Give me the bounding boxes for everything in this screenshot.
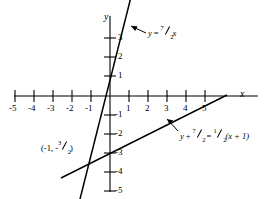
x-tick-label-3: 3: [164, 104, 169, 113]
eq1-numerator: 7: [161, 25, 164, 32]
eq1-denominator: 2: [170, 34, 173, 41]
point-label-denominator: 2: [68, 149, 71, 156]
x-tick-label-4: 4: [183, 104, 188, 113]
equation-label-line2: y+72=12(x + 1): [180, 130, 249, 141]
coordinate-plane-svg: [0, 0, 273, 199]
point-label-fraction: 32: [58, 142, 70, 153]
eq2-numerator-left: 7: [193, 128, 196, 135]
y-axis-label: y: [104, 12, 108, 22]
y-tick-label-2: 2: [118, 52, 123, 61]
eq2-fraction-left: 72: [193, 130, 205, 141]
y-tick-label-1: 1: [118, 71, 123, 80]
point-label-minus1-minus3halves: (-1, -32): [41, 142, 73, 153]
eq2-plus: +: [186, 131, 191, 141]
x-tick-label-1: 1: [126, 104, 131, 113]
x-tick-label--4: -4: [28, 104, 36, 113]
eq2-lhs-y: y: [180, 131, 184, 141]
line-steep-y-equals-seven-halves-x: [79, 0, 132, 199]
eq1-fraction: 72: [161, 27, 173, 38]
y-tick-label--1: -1: [115, 110, 123, 119]
x-tick-label--2: -2: [66, 104, 74, 113]
eq2-fraction-right: 12: [213, 130, 225, 141]
eq1-equals: =: [154, 28, 159, 38]
x-axis-label: x: [240, 89, 244, 99]
y-tick-label--2: -2: [115, 129, 123, 138]
eq2-numerator-right: 1: [213, 128, 216, 135]
y-tick-label-3: 3: [118, 33, 123, 42]
x-tick-label-5: 5: [202, 104, 207, 113]
eq1-lhs: y: [148, 28, 152, 38]
x-tick-label--1: -1: [85, 104, 93, 113]
point-label-open: (-1, -: [41, 143, 58, 153]
equation-label-line1: y=72x: [148, 27, 176, 38]
y-tick-label--4: -4: [115, 167, 123, 176]
y-tick-label--5: -5: [115, 186, 123, 195]
eq1-fraction-bar: [165, 26, 170, 34]
x-tick-label--5: -5: [9, 104, 17, 113]
eq2-denominator-left: 2: [202, 137, 205, 144]
point-label-fraction-bar: [62, 141, 67, 149]
eq2-fraction-bar-left: [197, 129, 202, 137]
y-tick-label--3: -3: [115, 148, 123, 157]
graph-figure: -5 -4 -3 -2 -1 1 2 3 4 5 3 2 1 -1 -2 -3 …: [0, 0, 273, 199]
point-label-numerator: 3: [58, 140, 61, 147]
eq2-fraction-bar-right: [217, 129, 222, 137]
leader-arrow-line1: [131, 26, 146, 33]
eq2-denominator-right: 2: [223, 137, 226, 144]
x-tick-label-2: 2: [145, 104, 150, 113]
x-tick-label--3: -3: [47, 104, 55, 113]
eq2-equals: =: [207, 131, 212, 141]
eq2-paren-expression: (x + 1): [225, 131, 249, 141]
